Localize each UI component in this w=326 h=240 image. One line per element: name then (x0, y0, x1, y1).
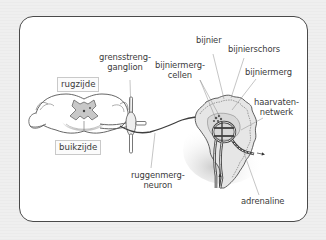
label-medulla-cells: bijniermerg- cellen (155, 60, 205, 80)
label-dorsal-side-text: rugzijde (61, 79, 95, 89)
label-adrenaline: adrenaline (241, 196, 284, 206)
label-dorsal-side: rugzijde (57, 77, 99, 92)
label-spinal-cord-neuron: ruggenmerg- neuron (131, 170, 185, 190)
spinal-cord-cross-section (29, 94, 130, 133)
label-adrenal-gland: bijnier (196, 35, 222, 45)
label-adrenal-cortex: bijnierschors (228, 44, 280, 54)
label-capillary-network: haarvaten- netwerk (254, 97, 299, 117)
diagram-stage: rugzijde buikzijde grensstreng- ganglion… (0, 0, 326, 240)
label-ventral-side: buikzijde (55, 140, 101, 155)
label-adrenal-medulla: bijniermerg (245, 67, 292, 77)
sympathetic-chain-ganglion (126, 97, 146, 153)
label-sympathetic-chain-ganglion: grensstreng- ganglion (99, 52, 151, 72)
label-ventral-side-text: buikzijde (59, 142, 97, 152)
